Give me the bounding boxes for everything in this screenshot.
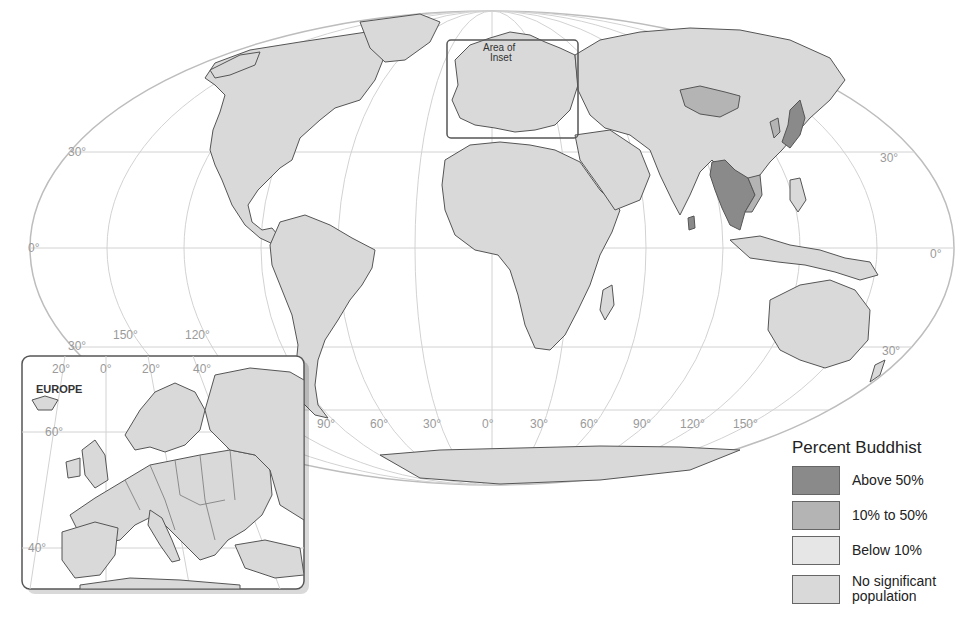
lon-label-bottom-6: 90° (633, 417, 651, 431)
legend-swatch-above-50 (792, 466, 840, 495)
legend-item-none: No significant population (786, 569, 966, 609)
lat-label-30n-left: 30° (68, 145, 86, 159)
legend-label: Below 10% (852, 543, 922, 558)
inset-lat-label-60: 60° (45, 425, 63, 439)
lon-label-bottom-3: 0° (482, 417, 494, 431)
legend-item-below-10: Below 10% (786, 534, 966, 566)
inset-marker-label-line2: Inset (490, 52, 512, 63)
inset-lon-label-1: 0° (100, 362, 112, 376)
legend-title: Percent Buddhist (792, 438, 966, 458)
lon-label-bottom-8: 150° (733, 417, 758, 431)
inset-lon-label-0: 20° (52, 362, 70, 376)
lon-label-bottom-2: 30° (423, 417, 441, 431)
lat-label-30s-right: 30° (882, 344, 900, 358)
legend-item-above-50: Above 50% (786, 464, 966, 496)
lon-label-bottom-1: 60° (370, 417, 388, 431)
legend-label: 10% to 50% (852, 508, 928, 523)
legend-swatch-none (792, 575, 840, 604)
legend-label: No significant population (852, 574, 936, 604)
legend: Percent Buddhist Above 50% 10% to 50% Be… (786, 438, 966, 612)
europe-inset: EUROPE 20° 0° 20° 40° 60° 40° (22, 356, 309, 594)
lon-label-bottom-4: 30° (530, 417, 548, 431)
lon-label-bottom-0: 90° (317, 417, 335, 431)
lon-label-bottom-7: 120° (680, 417, 705, 431)
legend-label-line1: No significant (852, 574, 936, 589)
legend-swatch-below-10 (792, 536, 840, 565)
lon-label-bottom-5: 60° (580, 417, 598, 431)
inset-lat-label-40: 40° (28, 541, 46, 555)
lon-label-150w: 150° (113, 328, 138, 342)
inset-lon-label-2: 20° (142, 362, 160, 376)
legend-label: Above 50% (852, 473, 924, 488)
legend-item-10-to-50: 10% to 50% (786, 499, 966, 531)
lon-label-120w: 120° (185, 328, 210, 342)
sri-lanka (688, 216, 695, 230)
lat-label-30n-right: 30° (880, 151, 898, 165)
legend-label-line2: population (852, 589, 936, 604)
inset-lon-label-3: 40° (193, 362, 211, 376)
lat-label-0-left: 0° (28, 241, 40, 255)
inset-title: EUROPE (36, 383, 82, 395)
lat-label-30s-left: 30° (68, 339, 86, 353)
lat-label-0-right: 0° (930, 247, 942, 261)
legend-swatch-10-to-50 (792, 501, 840, 530)
